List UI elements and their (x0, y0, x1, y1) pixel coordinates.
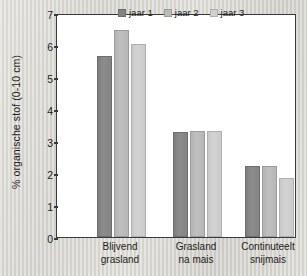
bar-group (167, 15, 227, 237)
legend-item-jaar-3: jaar 3 (210, 7, 245, 18)
bar-2-jaar-2 (190, 131, 205, 237)
x-category-line: snijmais (223, 254, 307, 267)
y-tick-mark (54, 238, 58, 239)
bar-3-jaar-3 (279, 178, 294, 237)
figure-background: % organische stof (0-10 cm) 01234567 jaa… (0, 0, 307, 276)
bar-3-jaar-1 (245, 166, 260, 237)
x-category-line: Continuteelt (223, 241, 307, 254)
legend-item-jaar-1: jaar 1 (118, 7, 153, 18)
bar-series-container (57, 15, 295, 237)
legend-item-jaar-2: jaar 2 (164, 7, 199, 18)
bar-2-jaar-1 (173, 132, 188, 237)
legend-swatch-icon (118, 9, 126, 17)
bar-group (91, 15, 151, 237)
y-axis-title: % organische stof (0-10 cm) (10, 22, 22, 222)
bar-1-jaar-1 (97, 56, 112, 237)
legend: jaar 1jaar 2jaar 3 (118, 7, 244, 18)
bar-1-jaar-2 (114, 30, 129, 237)
plot-area: 01234567 (56, 14, 296, 238)
legend-label: jaar 3 (221, 7, 245, 18)
x-axis-category-labels: BlijvendgraslandGraslandna maisContinute… (56, 241, 296, 273)
legend-label: jaar 1 (129, 7, 153, 18)
legend-swatch-icon (164, 9, 172, 17)
legend-swatch-icon (210, 9, 218, 17)
legend-label: jaar 2 (175, 7, 199, 18)
bar-group (239, 15, 299, 237)
bar-1-jaar-3 (131, 44, 146, 237)
bar-2-jaar-3 (207, 131, 222, 237)
bar-3-jaar-2 (262, 166, 277, 237)
x-category-label: Continuteeltsnijmais (223, 241, 307, 266)
